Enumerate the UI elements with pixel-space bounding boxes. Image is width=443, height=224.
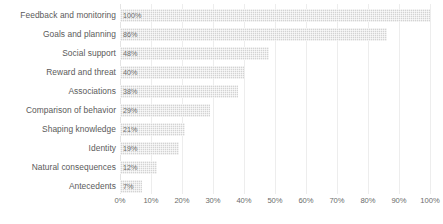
- category-label: Identity: [0, 139, 116, 158]
- category-label: Reward and threat: [0, 63, 116, 82]
- bar-value-label: 100%: [123, 9, 141, 22]
- x-tick-label: 30%: [205, 196, 220, 205]
- x-axis: 0%10%20%30%40%50%60%70%80%90%100%: [120, 196, 430, 210]
- category-label: Feedback and monitoring: [0, 6, 116, 25]
- category-label: Social support: [0, 44, 116, 63]
- bar-value-label: 48%: [123, 47, 137, 60]
- bar-row: Natural consequences12%: [0, 158, 443, 177]
- bar-track: 40%: [120, 66, 430, 79]
- horizontal-bar-chart: Feedback and monitoring100%Goals and pla…: [0, 0, 443, 224]
- bar: [120, 47, 269, 60]
- bar-row: Social support48%: [0, 44, 443, 63]
- bar: [120, 28, 387, 41]
- bar-row: Comparison of behavior29%: [0, 101, 443, 120]
- bar-value-label: 21%: [123, 123, 137, 136]
- category-label: Comparison of behavior: [0, 101, 116, 120]
- bar-value-label: 19%: [123, 142, 137, 155]
- bar: [120, 9, 430, 22]
- bar-row: Goals and planning86%: [0, 25, 443, 44]
- bar-track: 19%: [120, 142, 430, 155]
- x-tick-label: 50%: [267, 196, 282, 205]
- bar: [120, 66, 244, 79]
- bar-track: 29%: [120, 104, 430, 117]
- bar-row: Identity19%: [0, 139, 443, 158]
- x-tick-label: 100%: [420, 196, 439, 205]
- category-label: Goals and planning: [0, 25, 116, 44]
- bar-value-label: 12%: [123, 161, 137, 174]
- x-tick-label: 80%: [360, 196, 375, 205]
- x-tick-label: 70%: [329, 196, 344, 205]
- bar-value-label: 86%: [123, 28, 137, 41]
- bar-track: 21%: [120, 123, 430, 136]
- x-tick-label: 60%: [298, 196, 313, 205]
- bar-track: 86%: [120, 28, 430, 41]
- category-label: Associations: [0, 82, 116, 101]
- bar-track: 12%: [120, 161, 430, 174]
- x-tick-label: 10%: [143, 196, 158, 205]
- x-tick-label: 0%: [115, 196, 126, 205]
- x-tick-label: 20%: [174, 196, 189, 205]
- bar-track: 7%: [120, 180, 430, 193]
- category-label: Antecedents: [0, 177, 116, 196]
- category-label: Shaping knowledge: [0, 120, 116, 139]
- bar-track: 48%: [120, 47, 430, 60]
- x-tick-label: 40%: [236, 196, 251, 205]
- bar-track: 100%: [120, 9, 430, 22]
- bar-rows: Feedback and monitoring100%Goals and pla…: [0, 6, 443, 196]
- bar: [120, 85, 238, 98]
- bar-row: Shaping knowledge21%: [0, 120, 443, 139]
- category-label: Natural consequences: [0, 158, 116, 177]
- bar-row: Associations38%: [0, 82, 443, 101]
- bar-track: 38%: [120, 85, 430, 98]
- x-tick-label: 90%: [391, 196, 406, 205]
- bar-row: Feedback and monitoring100%: [0, 6, 443, 25]
- bar-value-label: 38%: [123, 85, 137, 98]
- bar-value-label: 29%: [123, 104, 137, 117]
- bar-row: Reward and threat40%: [0, 63, 443, 82]
- bar-value-label: 7%: [123, 180, 133, 193]
- bar-value-label: 40%: [123, 66, 137, 79]
- bar-row: Antecedents7%: [0, 177, 443, 196]
